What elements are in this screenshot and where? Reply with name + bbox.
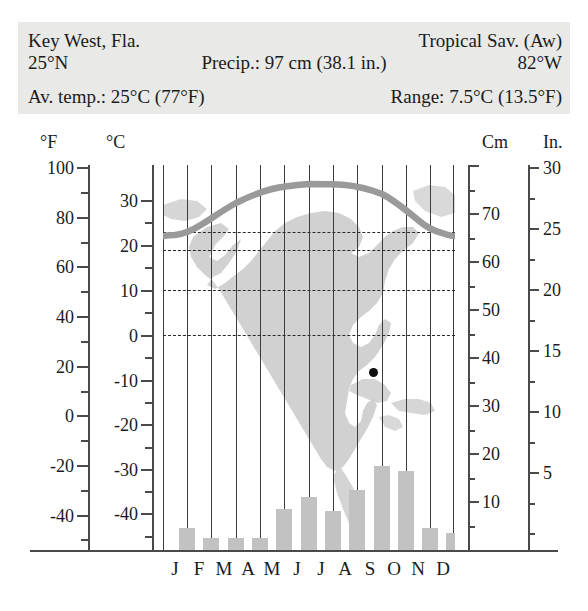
centimeters-tick-60: [468, 261, 479, 263]
inches-tick-17: [528, 320, 535, 322]
centimeters-tick-80: [468, 165, 479, 167]
gridline-vertical: [453, 165, 454, 550]
celsius-tick-neg40: [141, 513, 152, 515]
month-label-jul: J: [309, 558, 333, 580]
celsius-tick-neg35: [145, 491, 152, 493]
centimeters-label-70: 70: [482, 205, 500, 223]
celsius-tick-20: [141, 245, 152, 247]
centimeters-label-20: 20: [482, 445, 500, 463]
fahrenheit-label-0: 0: [24, 407, 74, 425]
gridline-vertical: [430, 165, 431, 550]
fahrenheit-axis-rail: [88, 165, 90, 550]
inches-tick-2: [528, 503, 535, 505]
celsius-tick-neg45: [145, 536, 152, 538]
centimeters-tick-25: [468, 430, 475, 432]
fahrenheit-tick-20: [77, 366, 88, 368]
precip-bar-jun: [301, 497, 317, 550]
celsius-tick-neg25: [145, 447, 152, 449]
centimeters-tick-5: [468, 526, 475, 528]
climograph-page: Key West, Fla. 25°N Tropical Sav. (Aw) 8…: [0, 0, 588, 611]
inches-label-30: 30: [543, 159, 561, 177]
month-label-jun: J: [285, 558, 309, 580]
month-label-nov: N: [406, 558, 430, 580]
celsius-tick-30: [141, 200, 152, 202]
inches-tick-22: [528, 259, 535, 261]
celsius-label-20: 20: [92, 237, 138, 255]
celsius-axis-rail: [152, 165, 154, 550]
fahrenheit-label-80: 80: [24, 209, 74, 227]
precip-summary: Precip.: 97 cm (38.1 in.): [201, 52, 386, 74]
celsius-tick-15: [145, 267, 152, 269]
precip-bar-feb: [203, 538, 219, 550]
fahrenheit-tick-neg50: [81, 539, 88, 541]
gridline-vertical: [284, 165, 285, 550]
fahrenheit-tick-100: [77, 167, 88, 169]
fahrenheit-tick-80: [77, 217, 88, 219]
month-label-sep: S: [358, 558, 382, 580]
celsius-tick-5: [145, 312, 152, 314]
precip-bar-apr: [252, 538, 268, 550]
precip-bar-jan: [179, 528, 195, 550]
celsius-label-neg30: -30: [84, 461, 138, 479]
station-latitude: 25°N: [28, 52, 68, 74]
inches-label-15: 15: [543, 342, 561, 360]
fahrenheit-label-neg40: -40: [16, 507, 74, 525]
climate-type: Tropical Sav. (Aw): [418, 30, 562, 52]
fahrenheit-tick-70: [81, 242, 88, 244]
location-marker-dot: [369, 368, 378, 377]
precip-bar-mar: [228, 538, 244, 550]
centimeters-tick-30: [468, 405, 479, 407]
celsius-label-10: 10: [92, 282, 138, 300]
celsius-tick-neg10: [141, 380, 152, 382]
centimeters-tick-55: [468, 286, 475, 288]
month-label-dec: D: [431, 558, 455, 580]
inches-tick-25: [528, 228, 539, 230]
celsius-tick-25: [145, 222, 152, 224]
reference-line-18c: [163, 250, 455, 251]
centimeters-tick-35: [468, 382, 475, 384]
celsius-tick-neg20: [141, 424, 152, 426]
centimeters-tick-10: [468, 501, 479, 503]
precip-bar-oct: [398, 471, 414, 550]
inches-axis-rail: [528, 165, 530, 550]
centimeters-tick-45: [468, 334, 475, 336]
avg-temp-summary: Av. temp.: 25°C (77°F): [28, 86, 205, 108]
inches-tick-10: [528, 411, 539, 413]
centimeters-label-40: 40: [482, 349, 500, 367]
precip-bar-nov: [422, 528, 438, 550]
month-label-feb: F: [187, 558, 211, 580]
celsius-tick-neg5: [145, 357, 152, 359]
centimeters-tick-20: [468, 453, 479, 455]
fahrenheit-tick-90: [81, 192, 88, 194]
gridline-vertical: [187, 165, 188, 550]
gridline-vertical: [309, 165, 310, 550]
reference-line-0c: [163, 335, 455, 336]
inches-tick-0: [528, 533, 535, 535]
precip-bar-aug: [349, 490, 365, 550]
station-longitude: 82°W: [517, 52, 562, 74]
centimeters-label-30: 30: [482, 397, 500, 415]
fahrenheit-tick-10: [81, 391, 88, 393]
station-name: Key West, Fla.: [28, 30, 140, 52]
fahrenheit-tick-50: [81, 291, 88, 293]
month-label-may: M: [260, 558, 284, 580]
fahrenheit-tick-40: [77, 316, 88, 318]
fahrenheit-label-100: 100: [24, 159, 74, 177]
fahrenheit-label-40: 40: [24, 308, 74, 326]
celsius-tick-neg15: [145, 402, 152, 404]
inches-label-20: 20: [543, 281, 561, 299]
celsius-label-0: 0: [92, 327, 138, 345]
celsius-label-30: 30: [92, 192, 138, 210]
precip-bar-sep: [374, 466, 390, 550]
axis-title-centimeters: Cm: [482, 132, 508, 153]
inches-tick-30: [528, 167, 539, 169]
axis-title-celsius: °C: [106, 132, 125, 153]
centimeters-tick-50: [468, 309, 479, 311]
centimeters-tick-65: [468, 238, 475, 240]
reference-line-20c: [163, 232, 455, 233]
celsius-tick-neg30: [141, 469, 152, 471]
celsius-tick-10: [141, 290, 152, 292]
celsius-label-neg10: -10: [84, 372, 138, 390]
gridline-vertical: [163, 165, 164, 550]
inches-label-25: 25: [543, 220, 561, 238]
